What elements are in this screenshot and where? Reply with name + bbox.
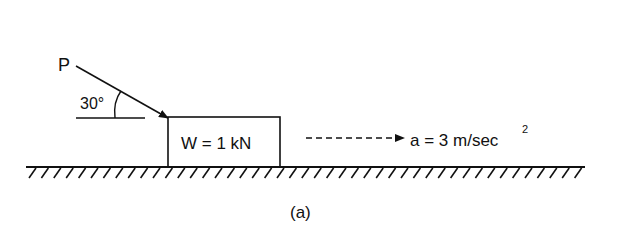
free-body-diagram: P 30° W = 1 kN a = 3 m/sec 2 (a) (0, 0, 617, 244)
ground-hatching (29, 168, 582, 178)
angle-label: 30° (80, 95, 104, 112)
block-label: W = 1 kN (181, 134, 251, 153)
acceleration-exponent: 2 (522, 123, 528, 135)
acceleration-label: a = 3 m/sec (410, 131, 499, 150)
angle-arc (115, 91, 121, 118)
force-label: P (58, 55, 70, 75)
figure-caption: (a) (290, 203, 311, 222)
